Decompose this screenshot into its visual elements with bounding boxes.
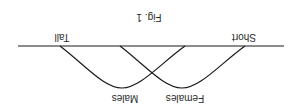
axis-label-short: Short	[232, 32, 256, 42]
females-label: Females	[166, 93, 204, 103]
height-distribution-figure: Fig. 1 Short Tall Females Males	[0, 0, 298, 109]
males-label: Males	[112, 93, 139, 103]
axis-label-tall: Tall	[54, 32, 69, 42]
males-curve	[60, 46, 185, 88]
figure-title: Fig. 1	[136, 12, 161, 22]
